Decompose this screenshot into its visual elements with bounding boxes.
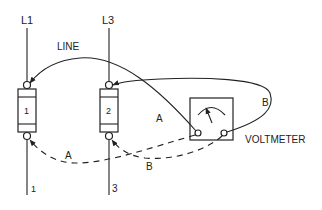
lead-a-solid-label: A — [156, 113, 163, 124]
voltmeter-terminal-b — [221, 130, 227, 136]
fuse-1-label: 1 — [24, 106, 29, 116]
load-label-1: 1 — [31, 184, 36, 194]
lead-a-dashed-label: A — [65, 150, 72, 161]
fuse-2-label: 2 — [106, 106, 111, 116]
lead-b-dashed-label: B — [146, 161, 153, 172]
fuse-1-load-terminal — [24, 133, 31, 140]
line-caption: LINE — [57, 41, 80, 52]
fuse-1-line-terminal — [24, 82, 31, 89]
fuse-2-line-terminal — [106, 82, 113, 89]
voltmeter-label: VOLTMETER — [245, 134, 305, 145]
fuse-2: 2 — [100, 82, 118, 140]
load-label-3: 3 — [112, 183, 118, 194]
lead-a-dashed — [30, 135, 195, 163]
wiring-diagram: L1 L3 1 2 1 3 LINE VOLTMETER B A — [0, 0, 322, 210]
label-l3: L3 — [102, 14, 114, 26]
voltmeter — [190, 98, 233, 140]
fuse-2-load-terminal — [106, 133, 113, 140]
label-l1: L1 — [21, 14, 33, 26]
fuse-1: 1 — [18, 82, 36, 140]
lead-b-solid-label: B — [262, 97, 269, 108]
